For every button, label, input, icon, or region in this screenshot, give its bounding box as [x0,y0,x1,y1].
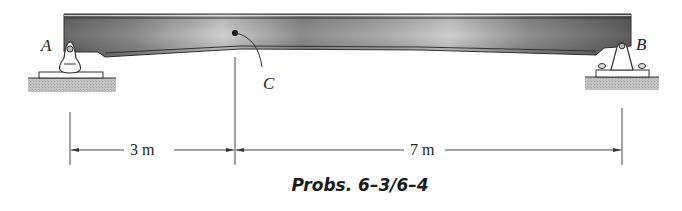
dimension-7m-label: 7 m [410,141,435,158]
beam [64,14,631,57]
dimension-3m: 3 m [71,141,234,158]
pin-b [619,43,625,49]
dimension-3m-label: 3 m [130,141,155,158]
label-b: B [636,35,647,54]
pin-a [67,46,73,52]
beam-diagram: C A B 3 m 7 m Probs. 6–3 [0,0,682,211]
ground-b [585,77,659,90]
dimension-7m: 7 m [236,141,621,158]
figure-caption: Probs. 6–3/6–4 [291,175,428,195]
ground-a [28,78,116,92]
base-plate-b [596,70,649,77]
label-a: A [40,36,52,55]
label-c: C [263,74,275,93]
bolt-b-right [639,64,646,69]
bolt-b-left [599,64,606,69]
